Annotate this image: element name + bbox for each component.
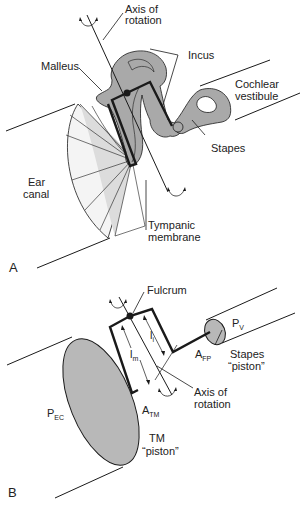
label-atm: ATM xyxy=(142,404,160,418)
label-fulcrum: Fulcrum xyxy=(147,284,187,296)
panel-a: Axis of rotation Incus Malleus Cochlear … xyxy=(6,3,300,275)
label-ear: Ear xyxy=(28,176,45,188)
rotation-arrow-top-icon xyxy=(81,20,96,26)
canal-lower-line xyxy=(37,238,110,268)
label-pv: PV xyxy=(232,317,244,331)
label-vestibule: vestibule xyxy=(235,90,278,102)
label-stapes-piston-1: Stapes xyxy=(230,348,265,360)
tm-tube-upper-line xyxy=(7,337,72,365)
label-membrane: membrane xyxy=(148,231,201,243)
label-canal: canal xyxy=(23,188,49,200)
fulcrum-dot-b xyxy=(127,313,134,320)
label-lm: lm xyxy=(130,348,138,362)
rotation-arrow-bottom-b-icon xyxy=(160,390,175,396)
label-stapes-piston-2: “piston” xyxy=(228,360,265,372)
stapes xyxy=(173,89,231,134)
panel-b: Fulcrum PV AFP Stapes “piston” lm li Axi… xyxy=(7,284,295,500)
canal-upper-line xyxy=(6,104,75,131)
label-malleus: Malleus xyxy=(41,60,79,72)
panel-letter-a: A xyxy=(9,260,18,275)
tm-piston xyxy=(47,328,155,475)
ossicular-lever-diagram: Axis of rotation Incus Malleus Cochlear … xyxy=(0,0,305,506)
label-tympanic: Tympanic xyxy=(148,219,196,231)
label-li: li xyxy=(150,329,154,343)
label-axis-of-rotation-b: Axis of xyxy=(194,386,228,398)
label-axis-of-rotation-b-2: rotation xyxy=(194,398,231,410)
label-pec: PEC xyxy=(47,407,64,421)
label-stapes: Stapes xyxy=(211,142,246,154)
rotation-arrow-bottom-icon xyxy=(169,190,184,196)
label-afp: AFP xyxy=(195,348,212,362)
stapes-piston xyxy=(201,316,229,348)
label-cochlear: Cochlear xyxy=(235,78,279,90)
fulcrum-dot-a xyxy=(124,90,131,97)
tm-tube-lower-line xyxy=(55,467,123,498)
label-tm-piston-1: TM xyxy=(149,432,165,444)
label-tm-piston-2: “piston” xyxy=(142,445,179,457)
label-axis-of-rotation-a-2: rotation xyxy=(125,14,162,26)
label-incus: Incus xyxy=(188,49,215,61)
stapes-tube-upper-line xyxy=(206,288,277,320)
panel-letter-b: B xyxy=(8,485,17,500)
